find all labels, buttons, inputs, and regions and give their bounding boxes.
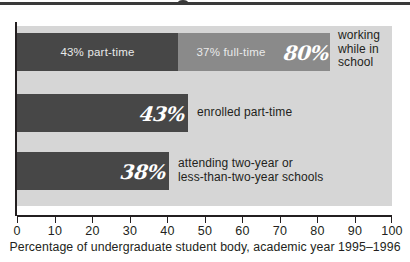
bar1-segment2-label: 37% full-time: [196, 46, 265, 58]
bar1-segment1-label: 43% part-time: [60, 46, 134, 58]
x-tick-80: [317, 216, 318, 223]
x-tick-label-100: 100: [381, 224, 402, 238]
x-tick-label-50: 50: [198, 224, 212, 238]
x-tick-label-40: 40: [160, 224, 174, 238]
top-rule-bump: [178, 0, 188, 5]
bar1-value-label: 80%: [283, 41, 331, 65]
x-tick-30: [130, 216, 131, 223]
bar-segment-part-time[interactable]: 43% part-time: [17, 33, 178, 71]
x-tick-label-90: 90: [348, 224, 362, 238]
top-rule-divider: [0, 2, 410, 5]
x-tick-label-60: 60: [235, 224, 249, 238]
x-tick-50: [205, 216, 206, 223]
panel-torn-edge-top: [17, 22, 392, 26]
x-tick-20: [92, 216, 93, 223]
x-tick-70: [280, 216, 281, 223]
bar2-value-label: 43%: [139, 102, 187, 126]
x-tick-label-80: 80: [310, 224, 324, 238]
x-tick-label-70: 70: [273, 224, 287, 238]
x-tick-label-10: 10: [48, 224, 62, 238]
x-tick-40: [167, 216, 168, 223]
panel-torn-edge-bottom: [17, 206, 392, 210]
x-tick-10: [55, 216, 56, 223]
x-tick-90: [355, 216, 356, 223]
x-tick-100: [391, 216, 392, 223]
chart-caption: Percentage of undergraduate student body…: [0, 240, 410, 254]
x-tick-60: [242, 216, 243, 223]
bar-chart-figure: 43% part-time 37% full-time 80% working …: [0, 0, 410, 262]
bar1-callout-label: working while in school: [338, 29, 380, 70]
x-tick-label-0: 0: [13, 224, 20, 238]
x-tick-0: [17, 216, 18, 223]
x-tick-label-20: 20: [85, 224, 99, 238]
x-tick-label-30: 30: [123, 224, 137, 238]
bar3-callout-label: attending two-year or less-than-two-year…: [178, 157, 323, 184]
bar2-callout-label: enrolled part-time: [197, 106, 292, 120]
bar3-value-label: 38%: [120, 160, 168, 184]
